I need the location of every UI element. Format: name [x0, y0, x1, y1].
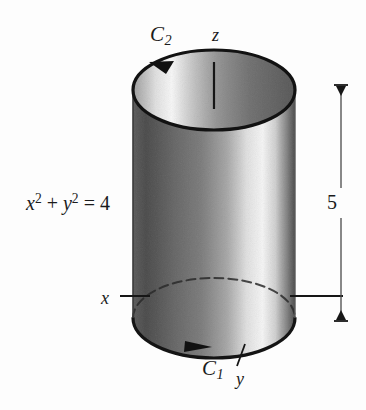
equation-y-exponent: 2: [72, 191, 79, 206]
axis-z-label: z: [212, 26, 219, 44]
axis-x-label: x: [101, 289, 109, 307]
height-dimension-label: 5: [327, 192, 337, 212]
equation-x-term: x: [26, 192, 35, 214]
axis-y-label: y: [236, 370, 244, 388]
curve-c2-label: C2: [150, 24, 172, 47]
equation-x-exponent: 2: [35, 191, 42, 206]
curve-c1-letter: C: [202, 356, 216, 380]
curve-c1-subscript: 1: [217, 366, 224, 382]
curve-c1-label: C1: [202, 358, 224, 381]
cylinder-equation-label: x2 + y2 = 4: [26, 192, 110, 213]
equation-y-term: y: [63, 192, 72, 214]
equation-equals-four: = 4: [79, 192, 110, 214]
curve-c2-subscript: 2: [165, 32, 172, 48]
curve-c2-letter: C: [150, 22, 164, 46]
equation-plus: +: [42, 192, 63, 214]
cylinder-figure: C2 z C1 y x x2 + y2 = 4 5: [0, 0, 366, 410]
